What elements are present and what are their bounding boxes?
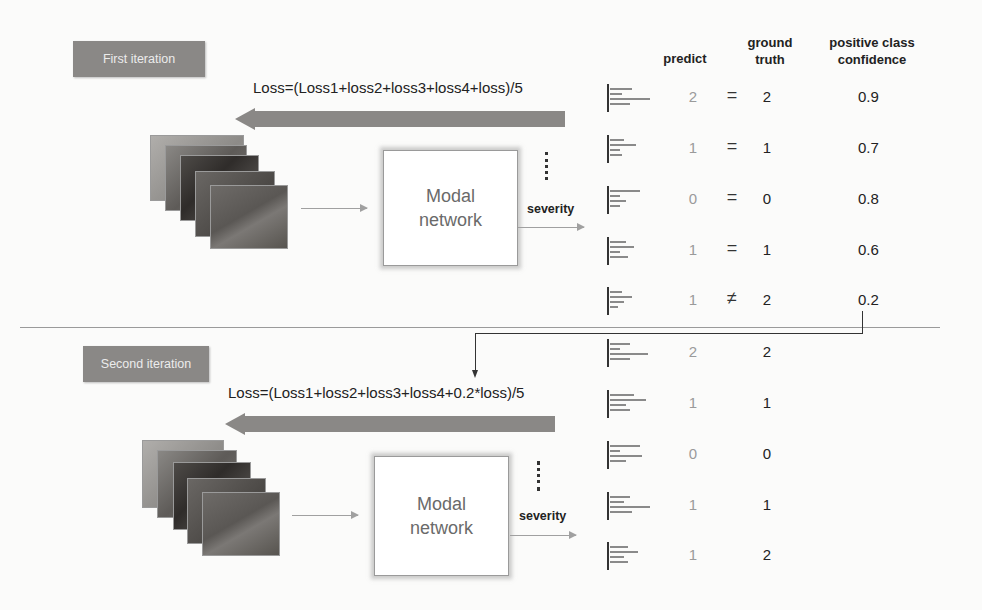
ground-truth-value: 0 bbox=[757, 190, 777, 207]
report-tree-icon bbox=[607, 186, 647, 214]
second-modal-network-box: Modal network bbox=[374, 456, 509, 576]
confidence-value: 0.9 bbox=[858, 88, 879, 105]
second-backprop-arrow bbox=[225, 413, 555, 435]
arrow-body bbox=[254, 111, 565, 127]
header-ground-truth: ground truth bbox=[740, 34, 800, 68]
report-tree-icon bbox=[607, 492, 647, 520]
report-tree-icon bbox=[607, 84, 647, 112]
arrow-head-icon bbox=[225, 413, 245, 435]
input-arrow bbox=[301, 208, 367, 209]
report-tree-icon bbox=[607, 237, 647, 265]
header-predict: predict bbox=[650, 50, 720, 67]
second-image-stack bbox=[142, 440, 282, 555]
relation-symbol: = bbox=[722, 238, 742, 259]
ground-truth-value: 1 bbox=[757, 496, 777, 513]
relation-symbol: = bbox=[722, 85, 742, 106]
confidence-value: 0.7 bbox=[858, 139, 879, 156]
model-box-line2: network bbox=[410, 516, 473, 540]
feedback-arrowhead-icon bbox=[472, 370, 478, 378]
ground-truth-value: 0 bbox=[757, 445, 777, 462]
header-confidence: positive class confidence bbox=[812, 34, 932, 68]
relation-symbol: = bbox=[722, 187, 742, 208]
report-tree-icon bbox=[607, 441, 647, 469]
predict-value: 1 bbox=[683, 496, 703, 513]
predict-value: 1 bbox=[683, 139, 703, 156]
output-arrow bbox=[518, 227, 584, 228]
first-severity-label: severity bbox=[527, 202, 574, 216]
report-tree-icon bbox=[607, 339, 647, 367]
second-iteration-label: Second iteration bbox=[101, 357, 191, 371]
second-iteration-badge: Second iteration bbox=[83, 346, 209, 382]
predict-value: 2 bbox=[683, 88, 703, 105]
image-layer bbox=[210, 185, 288, 249]
second-severity-label: severity bbox=[519, 509, 566, 523]
report-tree-icon bbox=[607, 135, 647, 163]
arrow-head-icon bbox=[235, 108, 255, 130]
predict-value: 2 bbox=[683, 343, 703, 360]
first-image-stack bbox=[150, 135, 290, 250]
output-arrow bbox=[510, 535, 576, 536]
predict-value: 0 bbox=[683, 445, 703, 462]
feedback-connector-vertical-left bbox=[475, 333, 476, 371]
ground-truth-value: 2 bbox=[757, 88, 777, 105]
relation-symbol: = bbox=[722, 136, 742, 157]
confidence-value: 0.6 bbox=[858, 241, 879, 258]
first-backprop-arrow bbox=[235, 108, 565, 130]
ground-truth-value: 1 bbox=[757, 139, 777, 156]
feedback-connector-vertical-right bbox=[862, 311, 863, 334]
relation-symbol: ≠ bbox=[722, 288, 742, 309]
predict-value: 1 bbox=[683, 241, 703, 258]
arrow-body bbox=[244, 416, 555, 432]
input-arrow bbox=[292, 515, 358, 516]
ground-truth-value: 2 bbox=[757, 343, 777, 360]
ellipsis-dots bbox=[537, 461, 543, 491]
confidence-value: 0.2 bbox=[858, 291, 879, 308]
predict-value: 1 bbox=[683, 394, 703, 411]
model-box-line1: Modal bbox=[410, 492, 473, 516]
second-loss-formula: Loss=(Loss1+loss2+loss3+loss4+0.2*loss)/… bbox=[228, 384, 524, 401]
first-modal-network-box: Modal network bbox=[383, 150, 518, 266]
first-iteration-badge: First iteration bbox=[73, 41, 205, 77]
iteration-separator bbox=[20, 327, 940, 328]
report-tree-icon bbox=[607, 542, 647, 570]
predict-value: 1 bbox=[683, 291, 703, 308]
predict-value: 0 bbox=[683, 190, 703, 207]
ground-truth-value: 1 bbox=[757, 394, 777, 411]
feedback-connector-horizontal bbox=[475, 333, 863, 334]
model-box-line1: Modal bbox=[419, 184, 482, 208]
first-iteration-label: First iteration bbox=[103, 52, 175, 66]
image-layer bbox=[202, 492, 280, 556]
ground-truth-value: 1 bbox=[757, 241, 777, 258]
ground-truth-value: 2 bbox=[757, 546, 777, 563]
ground-truth-value: 2 bbox=[757, 291, 777, 308]
predict-value: 1 bbox=[683, 546, 703, 563]
report-tree-icon bbox=[607, 287, 647, 315]
first-loss-formula: Loss=(Loss1+loss2+loss3+loss4+loss)/5 bbox=[253, 79, 523, 96]
ellipsis-dots bbox=[545, 152, 551, 180]
confidence-value: 0.8 bbox=[858, 190, 879, 207]
model-box-line2: network bbox=[419, 208, 482, 232]
report-tree-icon bbox=[607, 390, 647, 418]
